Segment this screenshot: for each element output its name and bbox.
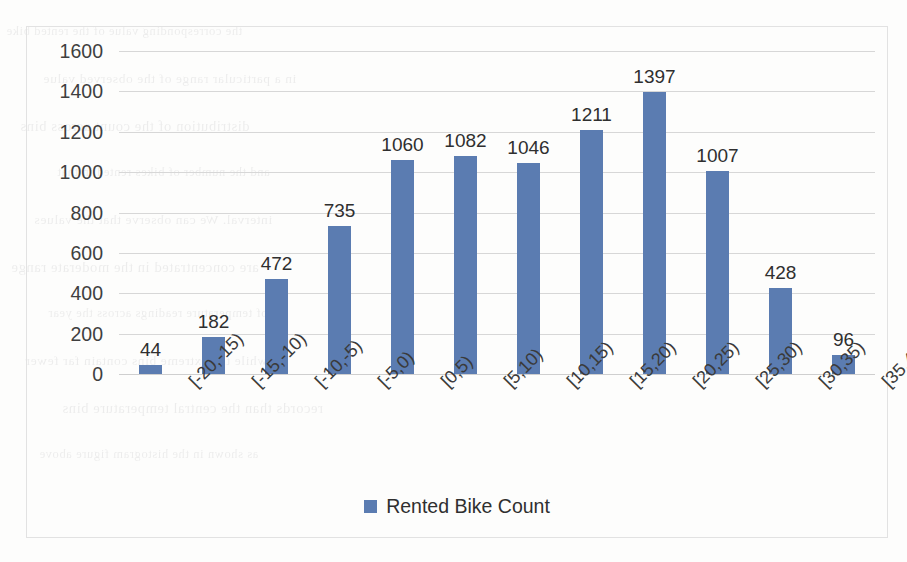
y-axis-tick-label: 600 [70,241,103,264]
bar[interactable] [643,92,666,374]
gridline [119,91,875,92]
y-axis: 02004006008001000120014001600 [27,51,115,374]
gridline [119,132,875,133]
bar-value-label: 1082 [444,130,486,152]
y-axis-tick-label: 1400 [60,80,103,103]
bar-value-label: 182 [198,311,230,333]
bar[interactable] [139,365,162,374]
gridline [119,253,875,254]
scanned-page: the corresponding value of the rented bi… [0,0,907,562]
gridline [119,172,875,173]
bar-value-label: 428 [765,262,797,284]
gridline [119,213,875,214]
gridline [119,293,875,294]
x-axis-tick-label: [-10,-5) [311,377,326,392]
x-axis-tick-label: [15,20) [626,377,641,392]
x-axis-tick-label: [-15,-10) [248,377,263,392]
x-axis-tick-label: [20,25) [689,377,704,392]
bar[interactable] [580,130,603,374]
y-axis-tick-label: 0 [92,363,103,386]
y-axis-tick-label: 400 [70,282,103,305]
bar-value-label: 735 [324,200,356,222]
y-axis-tick-label: 1600 [60,40,103,63]
x-axis-tick-label: [35,40) [878,377,893,392]
gridline [119,51,875,52]
x-axis-tick-label: [-20,-15) [185,377,200,392]
bar-value-label: 1007 [696,145,738,167]
bar-value-label: 1397 [633,66,675,88]
x-axis: [-20,-15)[-15,-10)[-10,-5)[-5,0)[0,5)[5,… [119,377,875,467]
x-axis-tick-label: [-5,0) [374,377,389,392]
bar[interactable] [391,160,414,374]
bar-value-label: 472 [261,253,293,275]
bar[interactable] [517,163,540,374]
x-axis-tick-label: [30,35) [815,377,830,392]
bar-value-label: 1046 [507,137,549,159]
plot-area: 4418247273510601082104612111397100742896 [119,51,875,374]
y-axis-tick-label: 800 [70,201,103,224]
y-axis-tick-label: 1200 [60,120,103,143]
chart-legend: Rented Bike Count [27,495,887,518]
bar-value-label: 1211 [571,104,612,126]
legend-swatch-rented-bike-count [364,500,377,513]
bar-value-label: 44 [140,339,161,361]
legend-label-rented-bike-count: Rented Bike Count [386,495,550,518]
x-axis-tick-label: [25,30) [752,377,767,392]
x-axis-tick-label: [5,10) [500,377,515,392]
x-axis-tick-label: [10,15) [563,377,578,392]
x-axis-tick-label: [0,5) [437,377,452,392]
y-axis-tick-label: 1000 [60,161,103,184]
bar[interactable] [454,156,477,374]
y-axis-tick-label: 200 [70,322,103,345]
chart-frame: 02004006008001000120014001600 4418247273… [26,26,888,538]
bar-value-label: 1060 [381,134,423,156]
